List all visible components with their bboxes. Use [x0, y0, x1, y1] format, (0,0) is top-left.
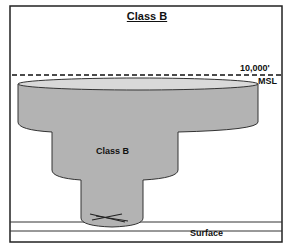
airspace-label: Class B — [96, 146, 129, 156]
surface-label: Surface — [190, 228, 223, 238]
altitude-label: 10,000' — [240, 63, 270, 73]
diagram-title: Class B — [0, 10, 294, 22]
class-b-airspace-diagram — [0, 0, 294, 248]
airspace-top-ellipse — [18, 78, 258, 90]
altitude-ref-label: MSL — [258, 76, 277, 86]
